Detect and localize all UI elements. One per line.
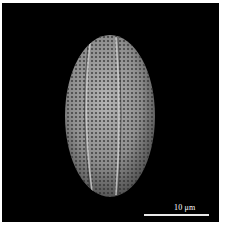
- micrograph: [2, 3, 219, 222]
- scale-bar-line: [144, 214, 209, 216]
- pollen-grain: [2, 3, 219, 222]
- scale-bar-label: 10 μm: [174, 203, 196, 212]
